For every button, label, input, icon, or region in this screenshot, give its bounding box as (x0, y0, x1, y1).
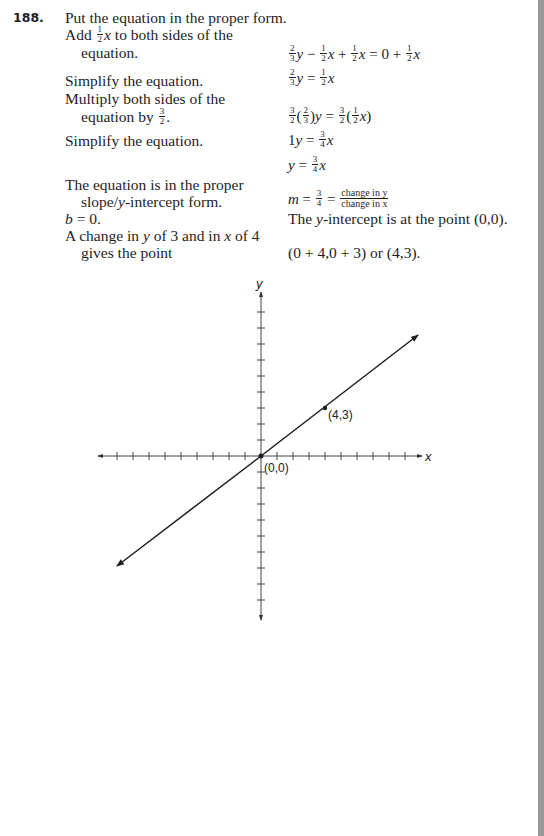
label-point-4-3: (4,3) (328, 408, 353, 422)
y-axis-label: y (255, 276, 264, 291)
plotted-line (261, 335, 418, 456)
point-origin (259, 454, 264, 459)
point-4-3 (323, 406, 327, 410)
label-origin: (0,0) (264, 461, 289, 475)
line-graph: (0,0) (4,3) x y (0, 0, 544, 836)
x-axis-label: x (424, 449, 432, 464)
